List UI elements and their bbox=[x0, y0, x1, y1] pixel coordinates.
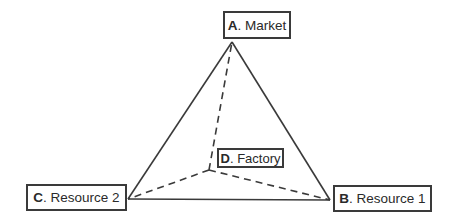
node-factory-letter: D bbox=[221, 151, 230, 166]
node-resource-2-label: . Resource 2 bbox=[43, 190, 120, 205]
edge-resource1-resource2 bbox=[128, 199, 330, 200]
dashed-edge-factory-resource2 bbox=[128, 170, 209, 199]
node-resource-2: C. Resource 2 bbox=[26, 184, 127, 211]
node-resource-1: B. Resource 1 bbox=[333, 185, 432, 212]
edge-resource2-market bbox=[128, 42, 232, 199]
node-factory: D. Factory bbox=[217, 148, 284, 168]
node-resource-1-label: . Resource 1 bbox=[349, 191, 426, 206]
node-market-letter: A bbox=[228, 18, 238, 33]
edge-market-resource1 bbox=[232, 42, 330, 200]
node-resource-1-letter: B bbox=[339, 191, 349, 206]
node-factory-label: . Factory bbox=[230, 151, 281, 166]
node-resource-2-letter: C bbox=[33, 190, 43, 205]
dashed-edge-factory-resource1 bbox=[209, 170, 330, 200]
node-market-label: . Market bbox=[237, 18, 286, 33]
node-market: A. Market bbox=[223, 11, 291, 39]
